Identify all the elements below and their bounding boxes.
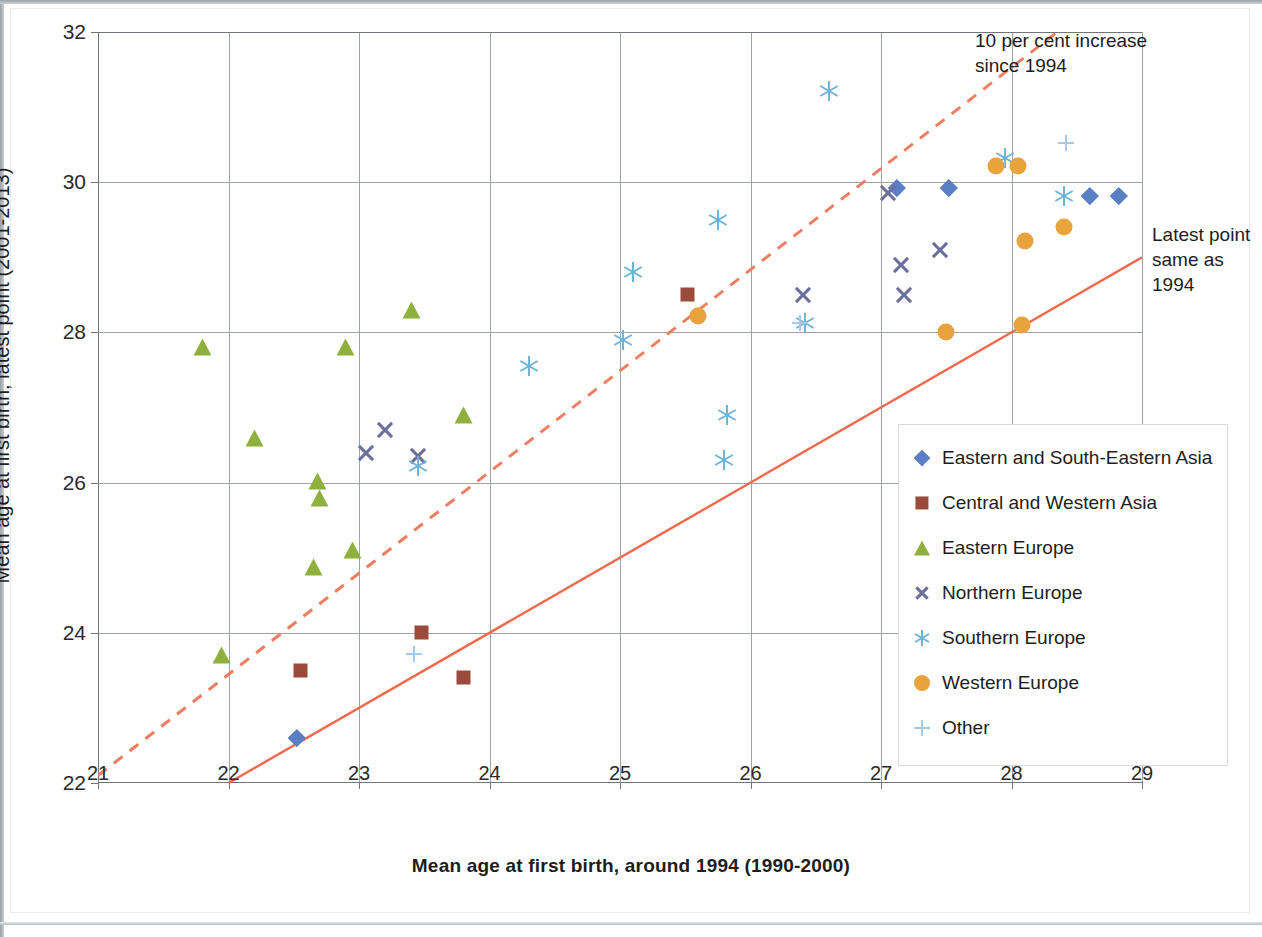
marker-circle-icon <box>1016 232 1033 249</box>
marker-triangle-icon <box>193 338 212 357</box>
marker-square-icon <box>292 662 309 679</box>
page-edge-bottom <box>0 922 1262 925</box>
marker-asterisk-icon <box>408 456 428 476</box>
legend-marker-diamond-icon <box>909 445 935 471</box>
marker-asterisk-icon <box>623 262 643 282</box>
marker-plus-icon <box>406 646 422 662</box>
marker-circle-icon <box>1055 219 1072 236</box>
gridline-vertical <box>229 32 230 783</box>
x-axis-title: Mean age at first birth, around 1994 (19… <box>0 855 1262 877</box>
marker-triangle-icon <box>402 300 421 319</box>
chart-page: Mean age at first birth, latest point (2… <box>0 0 1262 937</box>
y-axis-title-text: Mean age at first birth, latest point (2… <box>0 76 14 676</box>
legend-label: Southern Europe <box>942 627 1086 649</box>
marker-square-icon <box>679 286 696 303</box>
page-edge-top <box>0 0 1262 4</box>
marker-x-icon <box>356 443 376 463</box>
marker-circle-icon <box>987 157 1004 174</box>
marker-circle-icon <box>690 307 707 324</box>
y-tick-label: 24 <box>40 621 86 645</box>
y-tick-label: 30 <box>40 170 86 194</box>
marker-diamond-icon <box>1081 187 1098 204</box>
y-tick-label: 26 <box>40 471 86 495</box>
marker-x-icon <box>375 420 395 440</box>
y-axis-line <box>98 32 99 783</box>
legend-marker-circle-icon <box>909 670 935 696</box>
marker-triangle-icon <box>336 338 355 357</box>
gridline-vertical <box>881 32 882 783</box>
marker-asterisk-icon <box>613 330 633 350</box>
y-tick-label: 32 <box>40 20 86 44</box>
legend-item-southern-europe[interactable]: Southern Europe <box>909 615 1219 660</box>
x-tick-label: 22 <box>217 762 239 785</box>
legend-marker-x-icon <box>909 580 935 606</box>
y-tick-label: 22 <box>40 771 86 795</box>
x-tick-label: 24 <box>478 762 500 785</box>
marker-asterisk-icon <box>519 356 539 376</box>
tick-y <box>91 633 98 634</box>
legend-item-western-europe[interactable]: Western Europe <box>909 660 1219 705</box>
legend-item-eastern-europe[interactable]: Eastern Europe <box>909 525 1219 570</box>
marker-triangle-icon <box>454 406 473 425</box>
x-tick-label: 25 <box>609 762 631 785</box>
legend-marker-asterisk-icon <box>909 625 935 651</box>
marker-circle-icon <box>938 324 955 341</box>
legend-item-other[interactable]: Other <box>909 705 1219 750</box>
tick-y <box>91 32 98 33</box>
annotation-latest-point-same: Latest point same as 1994 <box>1152 222 1262 297</box>
marker-triangle-icon <box>343 541 362 560</box>
marker-asterisk-icon <box>708 210 728 230</box>
marker-x-icon <box>930 240 950 260</box>
marker-square-icon <box>413 624 430 641</box>
legend-marker-triangle-icon <box>909 535 935 561</box>
legend-marker-plus-icon <box>909 715 935 741</box>
marker-square-icon <box>455 669 472 686</box>
marker-asterisk-icon <box>717 405 737 425</box>
legend-marker-square-icon <box>909 490 935 516</box>
annotation-ten-per-cent-increase: 10 per cent increase since 1994 <box>975 28 1195 78</box>
marker-triangle-icon <box>310 488 329 507</box>
marker-plus-icon <box>1058 135 1074 151</box>
legend-label: Western Europe <box>942 672 1079 694</box>
legend-label: Northern Europe <box>942 582 1082 604</box>
marker-x-icon <box>891 255 911 275</box>
marker-asterisk-icon <box>714 450 734 470</box>
chart-legend: Eastern and South-Eastern AsiaCentral an… <box>898 424 1228 766</box>
marker-asterisk-icon <box>1054 186 1074 206</box>
gridline-vertical <box>620 32 621 783</box>
legend-label: Eastern and South-Eastern Asia <box>942 447 1212 469</box>
legend-item-eastern-and-south-eastern-asia[interactable]: Eastern and South-Eastern Asia <box>909 435 1219 480</box>
marker-x-icon <box>878 183 898 203</box>
gridline-vertical <box>359 32 360 783</box>
tick-y <box>91 483 98 484</box>
tick-y <box>91 182 98 183</box>
marker-triangle-icon <box>304 557 323 576</box>
x-tick-label: 27 <box>870 762 892 785</box>
gridline-horizontal <box>98 182 1142 183</box>
tick-y <box>91 332 98 333</box>
marker-diamond-icon <box>940 180 957 197</box>
legend-label: Central and Western Asia <box>942 492 1157 514</box>
marker-circle-icon <box>1010 157 1027 174</box>
marker-diamond-icon <box>288 729 305 746</box>
x-tick-label: 23 <box>348 762 370 785</box>
y-tick-label: 28 <box>40 320 86 344</box>
legend-item-northern-europe[interactable]: Northern Europe <box>909 570 1219 615</box>
legend-label: Eastern Europe <box>942 537 1074 559</box>
marker-plus-icon <box>792 315 808 331</box>
legend-item-central-and-western-asia[interactable]: Central and Western Asia <box>909 480 1219 525</box>
marker-asterisk-icon <box>819 81 839 101</box>
marker-x-icon <box>793 285 813 305</box>
legend-label: Other <box>942 717 990 739</box>
x-tick-label: 26 <box>739 762 761 785</box>
x-tick-label: 21 <box>87 762 109 785</box>
marker-triangle-icon <box>212 646 231 665</box>
marker-diamond-icon <box>1110 187 1127 204</box>
marker-x-icon <box>894 285 914 305</box>
gridline-vertical <box>751 32 752 783</box>
marker-circle-icon <box>1013 316 1030 333</box>
marker-triangle-icon <box>245 428 264 447</box>
gridline-vertical <box>490 32 491 783</box>
